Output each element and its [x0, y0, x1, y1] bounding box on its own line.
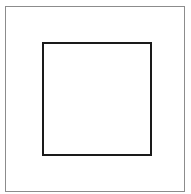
inner-square — [42, 42, 152, 156]
